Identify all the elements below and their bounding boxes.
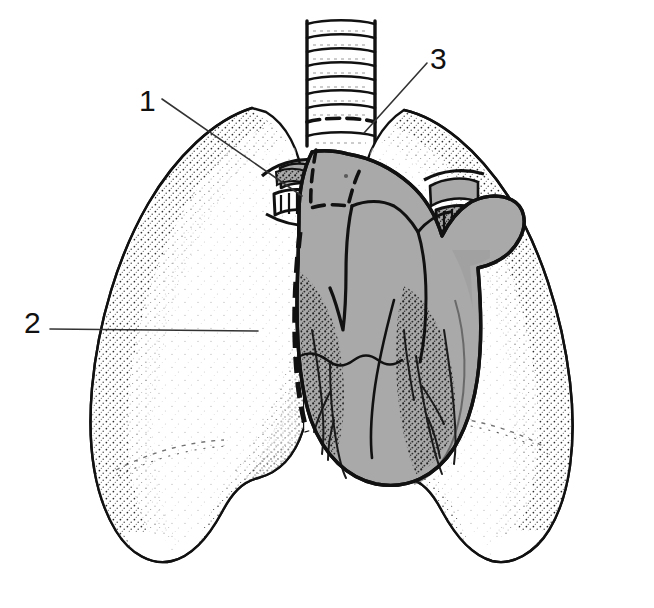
callout-label-3: 3 [430, 44, 447, 74]
anatomy-figure: 1 2 3 [0, 0, 654, 608]
callout-label-1: 1 [139, 86, 156, 116]
callout-label-2: 2 [24, 308, 41, 338]
anatomy-illustration [0, 0, 654, 608]
